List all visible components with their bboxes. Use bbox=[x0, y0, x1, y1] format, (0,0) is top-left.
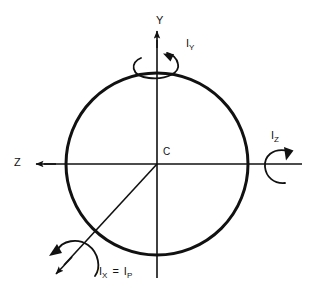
iy-rotation-arrowhead bbox=[163, 54, 174, 62]
iz-subscript: Z bbox=[274, 135, 279, 144]
iy-moment-label: IY bbox=[186, 38, 194, 49]
y-axis-label: Y bbox=[156, 15, 164, 26]
ix-moment-label: IX=IP bbox=[99, 266, 132, 277]
ix-subscript: X bbox=[102, 271, 107, 280]
x-axis-line bbox=[64, 164, 157, 265]
ix-rotation-arc bbox=[57, 241, 98, 276]
iy-subscript: Y bbox=[189, 43, 194, 52]
ix-equals: = bbox=[112, 265, 118, 277]
ip-subscript: P bbox=[127, 271, 132, 280]
iz-rotation-arrowhead bbox=[284, 147, 294, 161]
diagram-canvas bbox=[0, 0, 311, 298]
inertia-axes-diagram: Y Z C IY IZ IX=IP bbox=[0, 0, 311, 298]
z-axis-label: Z bbox=[14, 157, 21, 168]
iz-moment-label: IZ bbox=[271, 130, 279, 141]
x-axis-arrow bbox=[56, 257, 72, 274]
center-point-label: C bbox=[163, 147, 170, 157]
